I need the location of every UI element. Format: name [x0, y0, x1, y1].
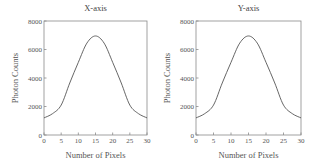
plot-area — [44, 21, 147, 135]
y-axis-label: Photon Counts — [10, 53, 20, 103]
photon-count-curve — [44, 36, 147, 118]
x-tick-label: 20 — [263, 137, 271, 145]
x-axis-label: Number of Pixels — [66, 150, 126, 160]
panel-title: X-axis — [84, 3, 107, 13]
x-tick-label: 20 — [109, 137, 117, 145]
y-tick-label: 2000 — [28, 103, 43, 111]
x-tick-label: 30 — [144, 137, 152, 145]
y-tick-label: 6000 — [180, 46, 195, 54]
x-tick-label: 30 — [298, 137, 306, 145]
x-tick-label: 10 — [75, 137, 83, 145]
x-tick-label: 25 — [280, 137, 288, 145]
x-tick-label: 15 — [245, 137, 253, 145]
x-axis-panel: X-axis 02000400060008000 051015202530 Nu… — [10, 3, 151, 160]
y-tick-label: 6000 — [28, 46, 43, 54]
x-tick-label: 0 — [42, 137, 46, 145]
x-tick-label: 0 — [194, 137, 198, 145]
y-axis-label: Photon Counts — [162, 53, 172, 103]
x-tick-label: 5 — [212, 137, 216, 145]
x-axis: 051015202530 — [42, 133, 151, 146]
x-tick-label: 15 — [92, 137, 100, 145]
y-axis-panel: Y-axis 02000400060008000 051015202530 Nu… — [162, 3, 305, 160]
x-tick-label: 5 — [59, 137, 63, 145]
photon-count-curve — [196, 36, 301, 118]
y-tick-label: 4000 — [28, 75, 43, 83]
chart-canvas: X-axis 02000400060008000 051015202530 Nu… — [0, 0, 320, 165]
y-tick-label: 8000 — [180, 18, 195, 26]
x-axis: 051015202530 — [194, 133, 305, 146]
panel-title: Y-axis — [238, 3, 260, 13]
x-tick-label: 25 — [126, 137, 134, 145]
figure: X-axis 02000400060008000 051015202530 Nu… — [0, 0, 320, 165]
x-axis-label: Number of Pixels — [219, 150, 279, 160]
y-tick-label: 2000 — [180, 103, 195, 111]
x-tick-label: 10 — [228, 137, 236, 145]
y-tick-label: 4000 — [180, 75, 195, 83]
y-tick-label: 8000 — [28, 18, 43, 26]
plot-area — [196, 21, 301, 135]
